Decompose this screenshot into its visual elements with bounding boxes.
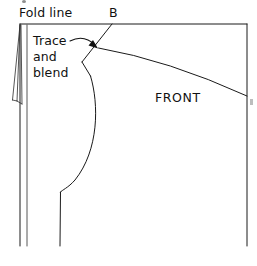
armhole-blend-curve [99, 48, 248, 96]
dart-wedge-right-leg [21, 25, 22, 104]
pattern-diagram: Fold line B Trace and blend FRONT [0, 0, 257, 266]
scan-speck-top [22, 0, 26, 3]
side-seam-straight [60, 192, 61, 246]
dart-wedge-close-left [13, 100, 18, 101]
front-piece-label: FRONT [155, 90, 201, 105]
point-b-label: B [109, 5, 118, 20]
side-seam-curve [61, 76, 96, 192]
fold-line-label: Fold line [19, 5, 72, 20]
scan-speck-right [250, 99, 253, 105]
shoulder-seam-line [82, 24, 112, 62]
trace-and-blend-label: Trace and blend [33, 33, 68, 81]
neck-step-line [82, 62, 91, 76]
